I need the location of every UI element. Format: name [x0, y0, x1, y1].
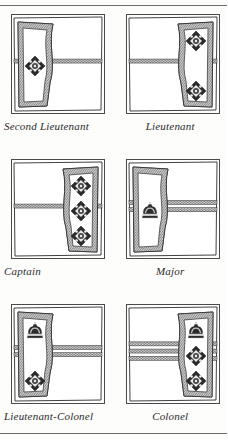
rank-caption: Lieutenant-Colonel	[0, 410, 118, 422]
strap-drawing	[127, 160, 219, 258]
rank-figure	[126, 14, 220, 114]
bottom-rule	[0, 433, 227, 434]
rank-figure	[126, 304, 220, 404]
strap-drawing	[127, 15, 219, 113]
rank-figure	[11, 159, 105, 259]
rank-caption: Major	[114, 265, 228, 277]
top-rule	[0, 5, 227, 6]
strap-drawing	[12, 15, 104, 113]
insignia-cell-major[interactable]: Major	[114, 155, 228, 300]
insignia-cell-colonel[interactable]: Colonel	[114, 300, 228, 440]
insignia-grid: Second Lieutenant Lieutenant Captain	[0, 10, 227, 440]
insignia-plate-page: Second Lieutenant Lieutenant Captain	[0, 0, 227, 440]
rank-caption: Lieutenant	[114, 120, 228, 132]
strap-drawing	[12, 305, 104, 403]
insignia-cell-second-lieutenant[interactable]: Second Lieutenant	[0, 10, 114, 155]
rank-figure	[11, 14, 105, 114]
rank-caption: Colonel	[114, 410, 228, 422]
insignia-cell-lieutenant-colonel[interactable]: Lieutenant-Colonel	[0, 300, 114, 440]
strap-drawing	[12, 160, 104, 258]
rank-figure	[126, 159, 220, 259]
rank-caption: Captain	[0, 265, 118, 277]
insignia-row: Lieutenant-Colonel Colonel	[0, 300, 227, 440]
insignia-row: Second Lieutenant Lieutenant	[0, 10, 227, 155]
strap-drawing	[127, 305, 219, 403]
rank-figure	[11, 304, 105, 404]
insignia-cell-lieutenant[interactable]: Lieutenant	[114, 10, 228, 155]
insignia-row: Captain Major	[0, 155, 227, 300]
rank-caption: Second Lieutenant	[0, 120, 118, 132]
insignia-cell-captain[interactable]: Captain	[0, 155, 114, 300]
